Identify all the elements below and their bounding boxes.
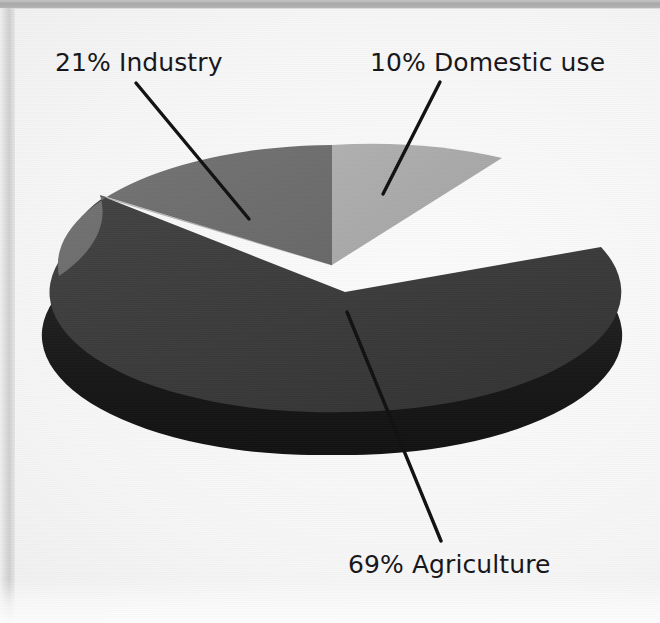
pie-chart-svg [0, 0, 660, 623]
pie-label-agriculture: 69% Agriculture [348, 550, 551, 579]
chart-plot-area: 21% Industry 10% Domestic use 69% Agricu… [0, 0, 660, 623]
pie-slice-domestic-use-top [332, 144, 502, 265]
pie-label-industry: 21% Industry [55, 48, 223, 77]
pie-chart-figure: 21% Industry 10% Domestic use 69% Agricu… [0, 0, 660, 623]
pie-slice-domestic-use[interactable] [332, 144, 502, 265]
pie-label-domestic-use: 10% Domestic use [370, 48, 605, 77]
